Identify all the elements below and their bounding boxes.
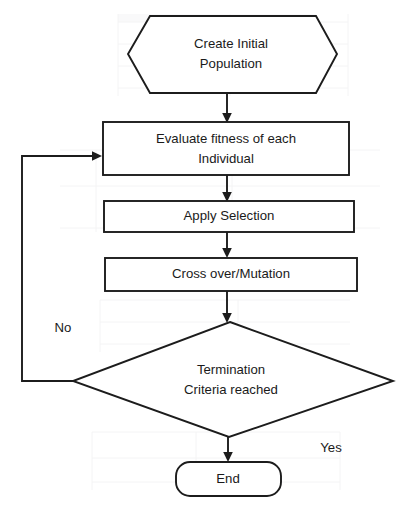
node-evaluate-fitness[interactable]: Evaluate fitness of each Individual bbox=[103, 122, 349, 175]
node-end[interactable]: End bbox=[176, 462, 281, 496]
node-label-evaluate-fitness-line1: Evaluate fitness of each bbox=[156, 131, 296, 146]
node-label-create-initial-population-line1: Create Initial bbox=[194, 36, 268, 51]
flowchart-canvas: Create Initial Population Evaluate fitne… bbox=[0, 0, 405, 512]
edge-label-no: No bbox=[55, 320, 72, 335]
node-label-crossover-mutation: Cross over/Mutation bbox=[172, 266, 290, 281]
node-label-termination-criteria-line2: Criteria reached bbox=[184, 382, 278, 397]
node-label-end: End bbox=[216, 471, 239, 486]
edge-selection-to-crossover bbox=[222, 231, 232, 258]
node-label-termination-criteria-line1: Termination bbox=[197, 362, 265, 377]
edge-label-yes: Yes bbox=[320, 440, 342, 455]
edge-evaluate-to-selection bbox=[222, 175, 232, 202]
node-label-apply-selection: Apply Selection bbox=[184, 208, 275, 223]
node-label-evaluate-fitness-line2: Individual bbox=[198, 151, 254, 166]
edge-crossover-to-termination bbox=[222, 290, 232, 323]
flowchart-diagram: Create Initial Population Evaluate fitne… bbox=[0, 0, 405, 512]
node-apply-selection[interactable]: Apply Selection bbox=[104, 201, 354, 232]
node-termination-criteria[interactable]: Termination Criteria reached bbox=[73, 322, 393, 437]
node-crossover-mutation[interactable]: Cross over/Mutation bbox=[105, 258, 357, 291]
node-label-create-initial-population-line2: Population bbox=[200, 56, 262, 71]
node-create-initial-population[interactable]: Create Initial Population bbox=[128, 16, 337, 93]
edge-create-to-evaluate bbox=[222, 93, 232, 123]
